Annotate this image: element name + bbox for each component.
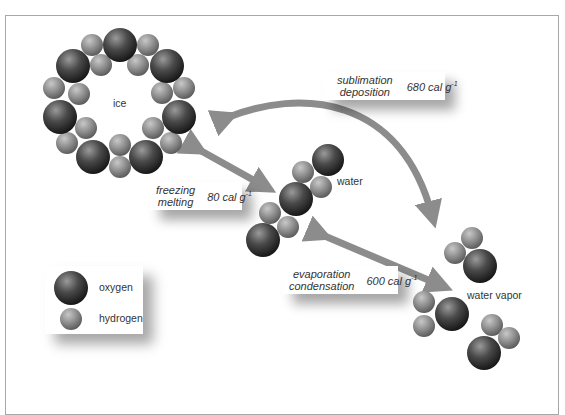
process-melting: melting [156,196,195,208]
evaporation-processes: evaporation condensation [289,268,354,292]
process-deposition: deposition [337,86,393,98]
legend: oxygen hydrogen [45,266,143,334]
sublimation-processes: sublimation deposition [337,74,393,98]
legend-oxygen-label: oxygen [99,281,133,293]
process-sublimation: sublimation [337,74,393,86]
process-evaporation: evaporation [289,268,354,280]
process-condensation: condensation [289,280,354,292]
sublimation-energy: 680 cal g-1 [407,80,458,93]
freezing-arrow [196,148,264,186]
evaporation-energy: 600 cal g-1 [366,274,417,287]
legend-hydrogen-label: hydrogen [99,312,143,324]
freezing-label-box: freezing melting 80 cal g-1 [150,182,242,210]
water-vapor-label: water vapor [467,289,522,301]
freezing-processes: freezing melting [156,184,195,208]
evaporation-label-box: evaporation condensation 600 cal g-1 [283,266,398,294]
ice-label: ice [113,97,126,109]
process-freezing: freezing [156,184,195,196]
oxygen-atom-icon [54,271,88,305]
hydrogen-atom-icon [60,308,82,330]
freezing-energy: 80 cal g-1 [207,190,252,203]
water-label: water [337,175,363,187]
sublimation-label-box: sublimation deposition 680 cal g-1 [323,72,445,100]
